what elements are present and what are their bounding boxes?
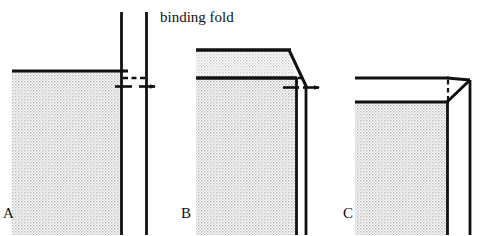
- binding-fold-illustration: [0, 0, 490, 235]
- panel-b-shaded-sheet: [196, 79, 296, 235]
- diagram-canvas: binding fold A B C: [0, 0, 490, 235]
- panel-label-b: B: [181, 206, 191, 221]
- panel-c: [355, 78, 470, 235]
- panel-b: [196, 50, 319, 235]
- panel-a-shaded-sheet: [12, 72, 122, 236]
- panel-b-flap-shaded: [196, 51, 296, 77]
- panel-c-shaded-sheet: [355, 103, 448, 235]
- panel-label-a: A: [3, 206, 14, 221]
- panel-c-corner-rule: [447, 78, 470, 80]
- panel-a: [12, 12, 155, 235]
- binding-fold-callout-label: binding fold: [160, 10, 234, 25]
- panel-label-c: C: [343, 206, 353, 221]
- panel-c-diagonal-fold-edge: [447, 80, 470, 102]
